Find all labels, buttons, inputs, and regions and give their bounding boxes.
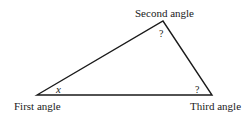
third-angle-label: Third angle bbox=[190, 100, 241, 112]
triangle-diagram: Second angle ? x First angle ? Third ang… bbox=[0, 0, 249, 117]
second-angle-label: Second angle bbox=[135, 7, 194, 19]
first-angle-value: x bbox=[55, 83, 61, 95]
second-angle-value: ? bbox=[159, 28, 164, 39]
third-angle-value: ? bbox=[195, 84, 200, 95]
triangle-shape bbox=[37, 21, 212, 95]
first-angle-label: First angle bbox=[14, 100, 61, 112]
